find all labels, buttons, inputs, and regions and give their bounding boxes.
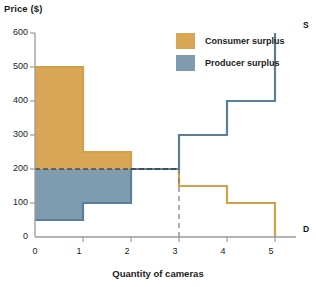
- producer-surplus-swatch: [176, 55, 195, 71]
- chart-legend: Consumer surplus Producer surplus: [176, 30, 285, 74]
- legend-label-consumer-surplus: Consumer surplus: [205, 36, 285, 46]
- surplus-chart: Price ($) Quantity of cameras 600 500 40…: [0, 0, 316, 287]
- legend-label-producer-surplus: Producer surplus: [205, 58, 280, 68]
- legend-item-consumer-surplus: Consumer surplus: [176, 30, 285, 52]
- legend-item-producer-surplus: Producer surplus: [176, 52, 285, 74]
- consumer-surplus-swatch: [176, 33, 195, 49]
